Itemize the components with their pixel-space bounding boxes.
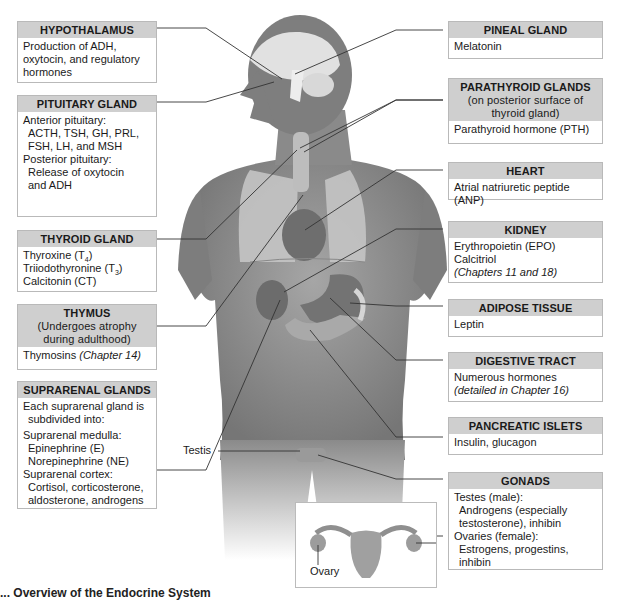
ovary-label: Ovary — [310, 565, 339, 577]
box-title: GONADS — [449, 473, 602, 489]
box-adipose-tissue: ADIPOSE TISSUE Leptin — [448, 299, 603, 337]
box-line: Norepinephrine (NE) — [23, 455, 151, 468]
box-title: HYPOTHALAMUS — [18, 22, 156, 38]
box-line: Suprarenal cortex: — [23, 468, 151, 481]
box-line: Testes (male): — [454, 491, 597, 504]
box-line: Calcitonin (CT) — [23, 275, 151, 288]
box-line: Estrogens, progestins, — [454, 543, 597, 556]
box-title: PITUITARY GLAND — [18, 96, 156, 112]
box-title: ADIPOSE TISSUE — [449, 300, 602, 316]
box-line: Each suprarenal gland is — [23, 400, 151, 413]
box-line: (Chapters 11 and 18) — [454, 266, 597, 279]
box-line: Production of ADH, — [23, 40, 151, 53]
box-line: Cortisol, corticosterone, — [23, 481, 151, 494]
box-line: Parathyroid hormone (PTH) — [454, 123, 597, 136]
box-line: Numerous hormones — [454, 371, 597, 384]
box-title: KIDNEY — [449, 222, 602, 238]
box-parathyroid-glands: PARATHYROID GLANDS (on posterior surface… — [448, 78, 603, 144]
box-line: hormones — [23, 66, 151, 79]
box-title: THYMUS (Undergoes atrophy during adultho… — [18, 305, 156, 347]
box-line: Epinephrine (E) — [23, 442, 151, 455]
heart — [282, 209, 326, 261]
box-line: Erythropoietin (EPO) — [454, 240, 597, 253]
box-line: Thymosins (Chapter 14) — [18, 347, 156, 365]
box-line: Thyroxine (T4) — [23, 249, 151, 262]
box-title: PINEAL GLAND — [449, 22, 602, 38]
box-line: ACTH, TSH, GH, PRL, — [23, 127, 151, 140]
box-line: Calcitriol — [454, 253, 597, 266]
box-pituitary-gland: PITUITARY GLAND Anterior pituitary: ACTH… — [17, 95, 157, 217]
box-suprarenal-glands: SUPRARENAL GLANDS Each suprarenal gland … — [17, 381, 157, 509]
box-line: aldosterone, androgens — [23, 494, 151, 507]
box-line: Triiodothyronine (T3) — [23, 262, 151, 275]
box-title: HEART — [449, 163, 602, 179]
box-pineal-gland: PINEAL GLAND Melatonin — [448, 21, 603, 59]
box-heart: HEART Atrial natriuretic peptide (ANP) — [448, 162, 603, 200]
box-line: Leptin — [454, 318, 597, 331]
box-title: PANCREATIC ISLETS — [449, 418, 602, 434]
box-line: FSH, LH, and MSH — [23, 140, 151, 153]
box-line: Suprarenal medulla: — [23, 429, 151, 442]
box-title: THYROID GLAND — [18, 231, 156, 247]
box-line: Melatonin — [454, 40, 597, 53]
box-digestive-tract: DIGESTIVE TRACT Numerous hormones (detai… — [448, 352, 603, 402]
ovary-inset: Ovary — [295, 502, 437, 588]
testis-label: Testis — [183, 444, 211, 456]
box-line: Posterior pituitary: — [23, 153, 151, 166]
box-kidney: KIDNEY Erythropoietin (EPO) Calcitriol (… — [448, 221, 603, 283]
box-line: (detailed in Chapter 16) — [454, 384, 597, 397]
box-line: testosterone), inhibin — [454, 517, 597, 530]
box-thymus: THYMUS (Undergoes atrophy during adultho… — [17, 304, 157, 370]
box-line: Atrial natriuretic peptide (ANP) — [454, 181, 597, 207]
box-line: Release of oxytocin — [23, 166, 151, 179]
box-gonads: GONADS Testes (male): Androgens (especia… — [448, 472, 603, 570]
box-hypothalamus: HYPOTHALAMUS Production of ADH, oxytocin… — [17, 21, 157, 83]
figure-caption: ... Overview of the Endocrine System — [0, 586, 211, 600]
box-line: Ovaries (female): — [454, 530, 597, 543]
box-thyroid-gland: THYROID GLAND Thyroxine (T4) Triiodothyr… — [17, 230, 157, 292]
box-line: subdivided into: — [23, 413, 151, 426]
box-line: Androgens (especially — [454, 504, 597, 517]
box-line: oxytocin, and regulatory — [23, 53, 151, 66]
testes — [296, 448, 326, 462]
box-pancreatic-islets: PANCREATIC ISLETS Insulin, glucagon — [448, 417, 603, 455]
box-line: Insulin, glucagon — [454, 436, 597, 449]
box-line: inhibin — [454, 556, 597, 569]
box-title: PARATHYROID GLANDS (on posterior surface… — [449, 79, 602, 121]
kidney — [256, 280, 288, 320]
box-title: SUPRARENAL GLANDS — [18, 382, 156, 398]
box-line: and ADH — [23, 179, 151, 192]
box-line: Anterior pituitary: — [23, 114, 151, 127]
box-title: DIGESTIVE TRACT — [449, 353, 602, 369]
